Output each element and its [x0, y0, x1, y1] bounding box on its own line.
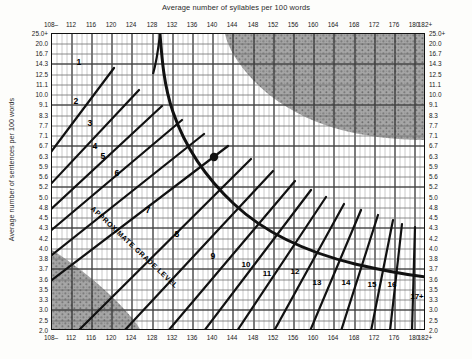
y-tick-right-3.3: 3.3 — [429, 296, 438, 303]
grade-label-7: 7 — [146, 205, 151, 215]
x-tick-top-128: 128 — [147, 21, 158, 28]
y-tick-right-8.3: 8.3 — [429, 112, 438, 119]
fry-readability-graph: Average number of syllables per 100 word… — [0, 0, 472, 359]
grade-label-9: 9 — [211, 251, 216, 261]
x-tick-top-124: 124 — [126, 21, 137, 28]
y-tick-right-6.7: 6.7 — [429, 142, 438, 149]
grade-label-17plus: 17+ — [410, 292, 424, 301]
x-tick-top-176: 176 — [389, 21, 400, 28]
y-tick-left-4.8: 4.8 — [20, 204, 48, 211]
y-tick-left-3.8: 3.8 — [20, 255, 48, 262]
plotted-point[interactable] — [210, 153, 218, 161]
y-tick-right-12.5: 12.5 — [429, 71, 441, 78]
x-tick-top-108: 108– — [44, 21, 58, 28]
x-tick-top-164: 164 — [328, 21, 339, 28]
y-tick-right-14.3: 14.3 — [429, 60, 441, 67]
x-tick-top-168: 168 — [349, 21, 360, 28]
grade-label-14: 14 — [342, 278, 351, 287]
grade-line-14 — [341, 215, 378, 330]
grade-label-16: 16 — [388, 280, 397, 289]
y-tick-right-3.5: 3.5 — [429, 286, 438, 293]
y-tick-left-12.5: 12.5 — [20, 71, 48, 78]
grade-label-12: 12 — [291, 267, 300, 276]
left-axis-title: Average number of sentences per 100 word… — [7, 80, 16, 260]
grade-label-11: 11 — [263, 269, 271, 278]
y-tick-left-3.5: 3.5 — [20, 286, 48, 293]
x-tick-bottom-160: 160 — [308, 334, 319, 341]
y-tick-left-25.0+: 25.0+ — [20, 30, 48, 37]
x-tick-top-112: 112 — [66, 21, 76, 28]
x-tick-bottom-176: 176 — [389, 334, 400, 341]
x-tick-top-140: 140 — [207, 21, 218, 28]
y-tick-left-3.7: 3.7 — [20, 265, 48, 272]
y-tick-left-4.3: 4.3 — [20, 224, 48, 231]
grade-label-2: 2 — [74, 96, 79, 106]
x-tick-bottom-164: 164 — [328, 334, 339, 341]
y-tick-left-7.1: 7.1 — [20, 132, 48, 139]
x-tick-bottom-116: 116 — [86, 334, 96, 341]
y-tick-left-2.5: 2.5 — [20, 317, 48, 324]
x-tick-top-136: 136 — [187, 21, 198, 28]
x-tick-top-132: 132 — [167, 21, 178, 28]
y-tick-right-4.5: 4.5 — [429, 214, 438, 221]
x-tick-bottom-124: 124 — [126, 334, 137, 341]
y-tick-right-2.5: 2.5 — [429, 317, 438, 324]
x-tick-bottom-156: 156 — [288, 334, 299, 341]
x-tick-bottom-128: 128 — [147, 334, 158, 341]
y-tick-left-7.7: 7.7 — [20, 122, 48, 129]
plot-area[interactable]: APPROXIMATE GRADE LEVEL 1234567891011121… — [51, 33, 425, 330]
grade-label-3: 3 — [88, 118, 93, 128]
y-tick-left-3.6: 3.6 — [20, 276, 48, 283]
x-tick-bottom-152: 152 — [268, 334, 279, 341]
y-tick-right-5.6: 5.6 — [429, 173, 438, 180]
x-tick-top-152: 152 — [268, 21, 279, 28]
y-tick-right-5.2: 5.2 — [429, 183, 438, 190]
x-tick-bottom-108: 108– — [44, 334, 58, 341]
x-tick-bottom-140: 140 — [207, 334, 218, 341]
y-tick-right-9.1: 9.1 — [429, 101, 438, 108]
y-tick-left-14.3: 14.3 — [20, 60, 48, 67]
y-tick-right-4.3: 4.3 — [429, 224, 438, 231]
y-tick-right-4.8: 4.8 — [429, 204, 438, 211]
y-tick-right-4.0: 4.0 — [429, 245, 438, 252]
grade-line-10 — [204, 190, 311, 330]
y-tick-left-20.0: 20.0 — [20, 40, 48, 47]
grade-label-5: 5 — [101, 151, 106, 161]
y-tick-left-3.0: 3.0 — [20, 306, 48, 313]
x-tick-bottom-132: 132 — [167, 334, 178, 341]
grade-label-13: 13 — [313, 278, 322, 287]
y-tick-left-5.2: 5.2 — [20, 183, 48, 190]
grade-line-1 — [52, 68, 114, 156]
y-tick-left-4.2: 4.2 — [20, 235, 48, 242]
y-tick-left-11.1: 11.1 — [20, 81, 48, 88]
x-tick-bottom-172: 172 — [369, 334, 380, 341]
y-tick-right-20.0: 20.0 — [429, 40, 441, 47]
grade-label-15: 15 — [368, 280, 377, 289]
y-tick-right-25.0+: 25.0+ — [429, 30, 445, 37]
y-tick-right-5.9: 5.9 — [429, 163, 438, 170]
y-tick-left-8.3: 8.3 — [20, 112, 48, 119]
grade-label-8: 8 — [175, 229, 180, 239]
y-tick-right-11.1: 11.1 — [429, 81, 441, 88]
y-tick-left-9.1: 9.1 — [20, 101, 48, 108]
x-tick-bottom-120: 120 — [106, 334, 117, 341]
x-tick-top-116: 116 — [86, 21, 96, 28]
x-tick-top-182: 182+ — [418, 21, 432, 28]
grade-label-1: 1 — [77, 57, 82, 67]
grade-label-10: 10 — [242, 260, 251, 269]
y-tick-right-10.0: 10.0 — [429, 91, 441, 98]
grade-line-15 — [371, 220, 393, 330]
x-tick-bottom-168: 168 — [349, 334, 360, 341]
y-tick-left-5.6: 5.6 — [20, 173, 48, 180]
y-tick-left-5.0: 5.0 — [20, 194, 48, 201]
y-tick-left-4.5: 4.5 — [20, 214, 48, 221]
y-tick-right-7.1: 7.1 — [429, 132, 438, 139]
x-tick-top-160: 160 — [308, 21, 319, 28]
grade-label-6: 6 — [115, 168, 120, 178]
y-tick-left-6.7: 6.7 — [20, 142, 48, 149]
x-tick-top-144: 144 — [227, 21, 238, 28]
x-tick-bottom-144: 144 — [227, 334, 238, 341]
y-tick-right-7.7: 7.7 — [429, 122, 438, 129]
top-axis-title: Average number of syllables per 100 word… — [0, 3, 472, 12]
x-tick-top-156: 156 — [288, 21, 299, 28]
